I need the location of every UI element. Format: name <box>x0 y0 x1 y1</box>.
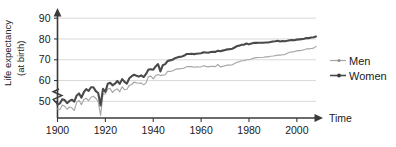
x-tick-label: 1980 <box>237 124 261 136</box>
x-tick-label: 1940 <box>142 124 166 136</box>
y-tick-label: 70 <box>39 53 51 65</box>
y-tick-label: 60 <box>39 74 51 86</box>
chart-svg: 5060708090 190019201940196019802000 Time… <box>0 0 396 147</box>
x-tick-label: 1920 <box>94 124 118 136</box>
y-tick-label: 80 <box>39 33 51 45</box>
legend-label-women: Women <box>349 70 387 82</box>
x-tick-label: 1960 <box>189 124 213 136</box>
y-tick-label: 90 <box>39 12 51 24</box>
legend-marker-men <box>338 59 341 62</box>
life-expectancy-chart: 5060708090 190019201940196019802000 Time… <box>0 0 396 147</box>
legend-label-men: Men <box>349 55 370 67</box>
x-tick-label: 2000 <box>285 124 309 136</box>
y-tick-label: 50 <box>39 95 51 107</box>
legend-marker-women <box>337 74 341 78</box>
y-axis-title-line1: Life expectancy <box>2 20 13 86</box>
x-tick-label: 1900 <box>46 124 70 136</box>
y-axis-title-line2: (at birth) <box>15 41 26 76</box>
x-axis-title: Time <box>329 112 352 124</box>
